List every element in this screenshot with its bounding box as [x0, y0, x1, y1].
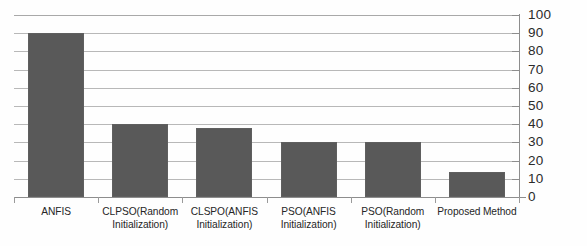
y-tick-mark-40: [512, 124, 519, 125]
category-label: CLSPO(ANFISInitialization): [182, 205, 266, 231]
bar[interactable]: [281, 142, 337, 197]
y-tick-mark-0: [512, 197, 519, 198]
bar[interactable]: [112, 124, 168, 197]
y-tick-label-30: 30: [528, 136, 543, 150]
bar-slot: [351, 15, 435, 197]
y-tick-label-0: 0: [528, 190, 536, 204]
x-tick-mark-6: [519, 197, 520, 203]
bar-slot: [182, 15, 266, 197]
y-tick-label-60: 60: [528, 81, 543, 95]
y-tick-label-80: 80: [528, 45, 543, 59]
y-tick-label-40: 40: [528, 117, 543, 131]
bar[interactable]: [28, 33, 84, 197]
category-label: CLPSO(RandomInitialization): [98, 205, 182, 231]
bars-layer: [14, 15, 519, 197]
y-tick-mark-30: [512, 142, 519, 143]
x-tick-mark-4: [351, 197, 352, 203]
category-label-line: Initialization): [182, 218, 266, 231]
y-tick-mark-60: [512, 88, 519, 89]
y-tick-label-10: 10: [528, 172, 543, 186]
bar-slot: [435, 15, 519, 197]
category-label-line: ANFIS: [14, 205, 98, 218]
category-label-line: Proposed Method: [435, 205, 519, 218]
y-tick-mark-70: [512, 70, 519, 71]
category-label-line: Initialization): [98, 218, 182, 231]
y-tick-mark-90: [512, 33, 519, 34]
y-tick-mark-80: [512, 51, 519, 52]
y-tick-label-70: 70: [528, 63, 543, 77]
bar[interactable]: [449, 172, 505, 197]
x-axis-category-labels: ANFISCLPSO(RandomInitialization)CLSPO(AN…: [14, 205, 519, 246]
bar[interactable]: [196, 128, 252, 197]
y-tick-label-90: 90: [528, 26, 543, 40]
category-label-line: Initialization): [351, 218, 435, 231]
x-tick-mark-2: [182, 197, 183, 203]
y-tick-label-20: 20: [528, 154, 543, 168]
plot-area: [14, 15, 519, 197]
bar-chart: 0102030405060708090100 ANFISCLPSO(Random…: [0, 0, 587, 246]
category-label-line: PSO(ANFIS: [267, 205, 351, 218]
category-label: PSO(RandomInitialization): [351, 205, 435, 231]
bar-slot: [98, 15, 182, 197]
bar[interactable]: [365, 142, 421, 197]
category-label: ANFIS: [14, 205, 98, 218]
x-tick-mark-3: [267, 197, 268, 203]
x-axis-line: [14, 197, 526, 198]
bar-slot: [267, 15, 351, 197]
y-tick-label-50: 50: [528, 99, 543, 113]
category-label-line: Initialization): [267, 218, 351, 231]
x-tick-mark-5: [435, 197, 436, 203]
y-tick-label-100: 100: [528, 8, 551, 22]
category-label-line: CLPSO(Random: [98, 205, 182, 218]
category-label: PSO(ANFISInitialization): [267, 205, 351, 231]
y-tick-mark-50: [512, 106, 519, 107]
category-label-line: CLSPO(ANFIS: [182, 205, 266, 218]
x-tick-mark-0: [14, 197, 15, 203]
y-tick-mark-20: [512, 161, 519, 162]
y-tick-mark-10: [512, 179, 519, 180]
category-label-line: PSO(Random: [351, 205, 435, 218]
y-tick-mark-100: [512, 15, 519, 16]
y-axis-line: [519, 14, 520, 198]
bar-slot: [14, 15, 98, 197]
x-tick-mark-1: [98, 197, 99, 203]
category-label: Proposed Method: [435, 205, 519, 218]
